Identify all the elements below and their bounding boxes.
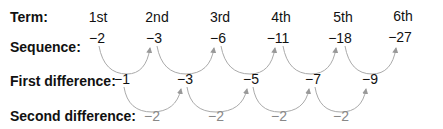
second-difference-label: Second difference: [10,108,136,124]
second-difference-1: −2 [144,108,160,124]
sequence-value-3: −6 [210,30,226,46]
term-5: 5th [333,9,352,25]
term-2: 2nd [145,9,168,25]
sequence-value-6: −27 [388,29,412,45]
term-4: 4th [271,9,290,25]
first-difference-3: −5 [243,71,259,87]
sequence-value-2: −3 [146,30,162,46]
second-difference-2: −2 [208,108,224,124]
sequence-value-5: −18 [328,30,352,46]
sequence-value-4: −11 [267,30,290,46]
first-difference-label: First difference: [10,73,116,89]
sequence-value-1: −2 [89,30,105,46]
first-difference-4: −7 [305,71,321,87]
term-label: Term: [10,9,48,25]
sequence-label: Sequence: [10,39,81,55]
term-6: 6th [393,8,412,24]
term-3: 3rd [210,9,230,25]
term-1: 1st [89,9,108,25]
first-difference-5: −9 [362,71,378,87]
first-difference-1: −1 [114,71,130,87]
second-difference-4: −2 [333,108,349,124]
first-difference-2: −3 [177,71,193,87]
second-difference-3: −2 [271,108,287,124]
